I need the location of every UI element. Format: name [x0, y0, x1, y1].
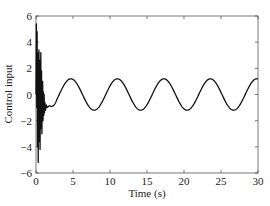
y-tick-label: −2 — [20, 115, 32, 127]
x-tick-label: 30 — [253, 175, 265, 187]
x-tick-labels: 051015202530 — [33, 175, 264, 187]
x-tick-label: 15 — [142, 175, 154, 187]
line-chart: 051015202530 −6−4−20246 Time (s) Control… — [0, 0, 270, 206]
x-tick-label: 20 — [179, 175, 191, 187]
plot-area — [36, 16, 258, 173]
x-tick-label: 0 — [33, 175, 39, 187]
y-tick-label: −4 — [20, 141, 32, 153]
x-tick-label: 5 — [70, 175, 76, 187]
y-tick-label: 4 — [27, 36, 33, 48]
x-tick-label: 10 — [105, 175, 117, 187]
x-tick-label: 25 — [216, 175, 228, 187]
y-tick-label: 0 — [27, 89, 33, 101]
x-axis-label: Time (s) — [128, 187, 166, 200]
y-tick-label: 6 — [27, 10, 33, 22]
y-tick-label: 2 — [27, 62, 33, 74]
y-tick-label: −6 — [20, 167, 32, 179]
y-axis-label: Control input — [2, 65, 14, 124]
y-tick-labels: −6−4−20246 — [20, 10, 32, 179]
